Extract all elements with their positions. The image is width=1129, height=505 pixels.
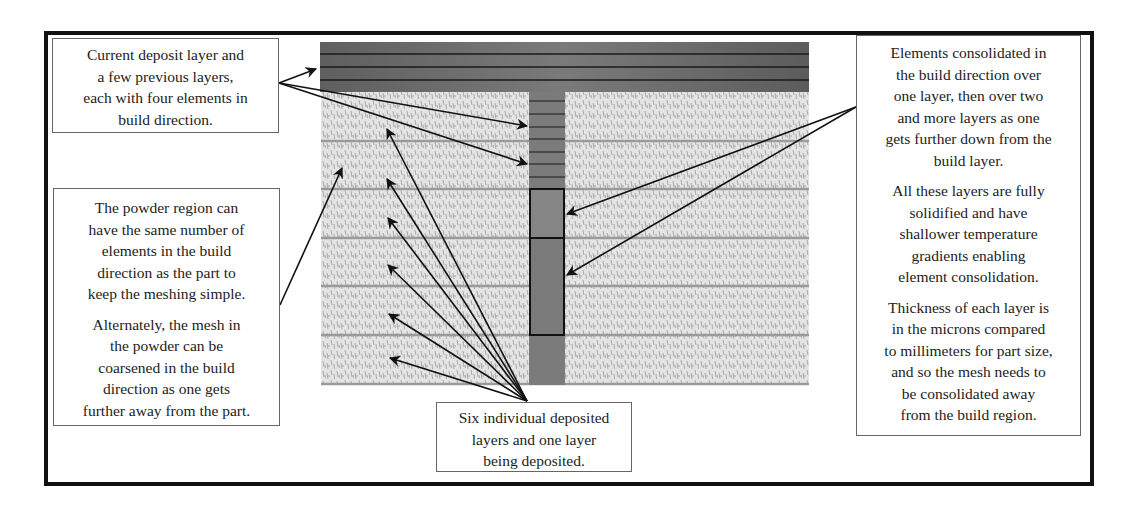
callout-line: layers and one layer (443, 429, 625, 451)
callout-line: build direction. (59, 109, 272, 131)
callout-line: one layer, then over two (863, 85, 1074, 107)
callout-line: gradients enabling (863, 245, 1074, 267)
callout-line: Thickness of each layer is (863, 297, 1074, 319)
callout-line: All these layers are fully (863, 180, 1074, 202)
callout-line: Elements consolidated in (863, 42, 1074, 64)
callout-line: to millimeters for part size, (863, 340, 1074, 362)
callout-line: each with four elements in (59, 87, 272, 109)
callout-line: solidified and have (863, 202, 1074, 224)
callout-line: build layer. (863, 150, 1074, 172)
deposit-layers-bar (320, 42, 809, 92)
callout-line: the build direction over (863, 64, 1074, 86)
callout-line: direction as one gets (60, 378, 273, 400)
callout-line: Current deposit layer and (59, 44, 272, 66)
callout-line: be consolidated away (863, 383, 1074, 405)
callout-line: in the microns compared (863, 318, 1074, 340)
callout-line: The powder region can (60, 197, 273, 219)
callout-line: coarsened in the build (60, 357, 273, 379)
callout-paragraph: Thickness of each layer is in the micron… (863, 297, 1074, 426)
callout-line: a few previous layers, (59, 66, 272, 88)
callout-line: Alternately, the mesh in (60, 314, 273, 336)
consolidated-block-one-layer (530, 189, 564, 238)
callout-line: Six individual deposited (443, 407, 625, 429)
part-column (529, 92, 565, 385)
callout-line: further away from the part. (60, 400, 273, 422)
callout-individual-layers: Six individual deposited layers and one … (436, 402, 632, 472)
callout-line: have the same number of (60, 219, 273, 241)
callout-line: from the build region. (863, 404, 1074, 426)
callout-line: and more layers as one (863, 107, 1074, 129)
callout-line: shallower temperature (863, 223, 1074, 245)
callout-line: elements in the build (60, 240, 273, 262)
callout-line: gets further down from the (863, 128, 1074, 150)
callout-line: keep the meshing simple. (60, 283, 273, 305)
callout-line: element consolidation. (863, 266, 1074, 288)
callout-consolidation: Elements consolidated in the build direc… (856, 35, 1081, 436)
callout-powder-region: The powder region can have the same numb… (53, 188, 280, 426)
callout-deposit-layers: Current deposit layer and a few previous… (52, 38, 279, 133)
callout-paragraph: Elements consolidated in the build direc… (863, 42, 1074, 171)
callout-paragraph: All these layers are fully solidified an… (863, 180, 1074, 288)
callout-line: the powder can be (60, 335, 273, 357)
callout-line: and so the mesh needs to (863, 361, 1074, 383)
callout-paragraph: The powder region can have the same numb… (60, 197, 273, 305)
consolidated-block-two-layers (530, 238, 564, 335)
callout-line: being deposited. (443, 450, 625, 472)
callout-paragraph: Alternately, the mesh in the powder can … (60, 314, 273, 422)
callout-line: direction as the part to (60, 262, 273, 284)
